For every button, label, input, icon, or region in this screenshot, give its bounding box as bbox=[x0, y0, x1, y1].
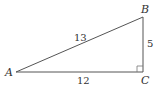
triangle-abc bbox=[16, 17, 143, 72]
right-angle-marker bbox=[137, 66, 143, 72]
side-label-ac: 12 bbox=[77, 75, 90, 86]
vertex-label-b: B bbox=[140, 3, 149, 16]
triangle-diagram: A B C 13 5 12 bbox=[0, 0, 159, 91]
side-label-ab: 13 bbox=[74, 32, 87, 43]
side-label-bc: 5 bbox=[147, 38, 153, 49]
vertex-label-c: C bbox=[141, 74, 150, 87]
vertex-label-a: A bbox=[4, 66, 13, 79]
